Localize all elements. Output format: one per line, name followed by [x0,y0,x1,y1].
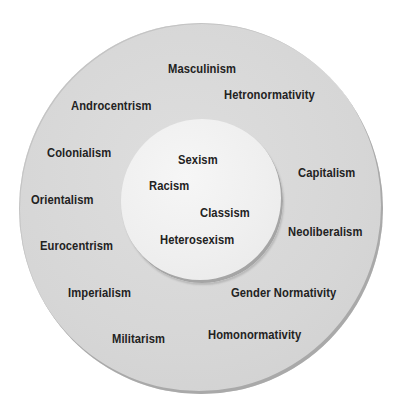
concentric-oppression-diagram: Masculinism Hetronormativity Androcentri… [0,0,400,413]
inner-label-sexism: Sexism [178,152,218,167]
outer-label-masculinism: Masculinism [168,61,236,76]
outer-label-imperialism: Imperialism [68,285,131,300]
inner-label-classism: Classism [200,205,250,220]
outer-label-homonormativity: Homonormativity [208,327,301,342]
outer-label-colonialism: Colonialism [47,145,111,160]
outer-label-neoliberalism: Neoliberalism [288,224,362,239]
outer-label-hetronormativity: Hetronormativity [224,87,315,102]
inner-label-heterosexism: Heterosexism [160,232,234,247]
outer-label-militarism: Militarism [112,331,165,346]
inner-label-racism: Racism [149,178,189,193]
outer-label-eurocentrism: Eurocentrism [40,238,113,253]
inner-circle [121,119,283,283]
outer-label-capitalism: Capitalism [298,165,355,180]
outer-label-orientalism: Orientalism [31,192,93,207]
outer-label-gender-normativity: Gender Normativity [231,285,336,300]
outer-label-androcentrism: Androcentrism [71,98,152,113]
